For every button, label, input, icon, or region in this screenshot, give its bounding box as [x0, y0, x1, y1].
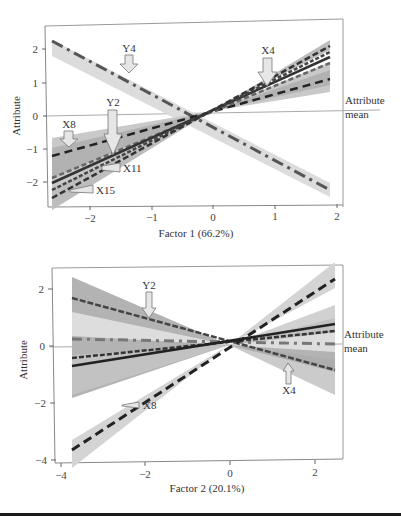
- x-tick-label: −4: [55, 469, 67, 481]
- y-tick-label: −2: [26, 176, 38, 188]
- y-ticks: 2 1 0 −1 −2: [26, 43, 47, 188]
- y-axis-label: Attribute: [17, 340, 29, 380]
- x-ticks: −2 −1 0 1 2: [84, 204, 340, 224]
- y-tick-label: 1: [33, 77, 39, 89]
- chart-factor-1: 2 1 0 −1 −2 −2 −1 0 1 2 Factor 1 (66.2%)…: [10, 19, 385, 240]
- svg-text:X4: X4: [261, 44, 275, 56]
- x-tick-label: −2: [84, 212, 96, 224]
- x-tick-label: 2: [312, 466, 318, 478]
- svg-text:Y2: Y2: [142, 279, 155, 291]
- x-axis-label: Factor 2 (20.1%): [170, 482, 245, 495]
- reference-label: Attribute: [345, 94, 385, 106]
- chart-factor-2: 2 0 −2 −4 −4 −2 0 2 Factor 2 (20.1%) Att…: [17, 262, 384, 495]
- x-tick-label: 1: [272, 210, 278, 222]
- svg-text:X11: X11: [123, 162, 142, 174]
- reference-label: mean: [344, 342, 368, 354]
- arrow-left-icon: [122, 402, 139, 408]
- reference-label: mean: [345, 108, 369, 120]
- svg-text:X8: X8: [143, 399, 157, 411]
- reference-label: Attribute: [344, 328, 384, 340]
- y-tick-label: −2: [34, 397, 46, 409]
- x-tick-label: 0: [227, 467, 233, 479]
- x-tick-label: 0: [210, 211, 216, 223]
- y-axis: [52, 268, 55, 463]
- y-tick-label: −4: [35, 454, 47, 466]
- y-tick-label: 2: [39, 283, 45, 295]
- x-axis: [55, 459, 343, 463]
- x-axis-label: Factor 1 (66.2%): [159, 227, 234, 240]
- x-tick-label: 2: [334, 210, 340, 222]
- arrow-down-icon: [120, 55, 138, 73]
- y-tick-label: −1: [26, 143, 38, 155]
- svg-text:X8: X8: [62, 118, 76, 130]
- svg-text:X15: X15: [96, 184, 115, 196]
- figure: 2 1 0 −1 −2 −2 −1 0 1 2 Factor 1 (66.2%)…: [0, 0, 401, 516]
- svg-text:X4: X4: [282, 384, 296, 396]
- x-tick-label: −2: [139, 468, 151, 480]
- x-tick-label: −1: [146, 211, 158, 223]
- y-tick-label: 0: [40, 340, 46, 352]
- x-ticks: −4 −2 0 2: [55, 460, 318, 481]
- y-tick-label: 2: [33, 43, 39, 55]
- svg-text:Y2: Y2: [106, 96, 119, 108]
- svg-text:Y4: Y4: [122, 42, 136, 54]
- annotation-y4: Y4: [120, 42, 138, 73]
- y-axis-label: Attribute: [10, 96, 22, 136]
- x-axis: [48, 205, 343, 207]
- y-tick-label: 0: [33, 110, 39, 122]
